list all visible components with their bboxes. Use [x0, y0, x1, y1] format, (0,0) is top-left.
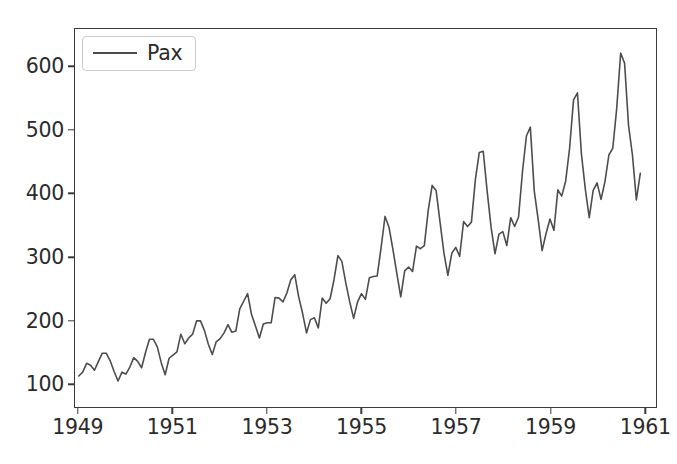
chart-legend: Pax	[82, 36, 196, 71]
x-tick-label: 1953	[241, 415, 292, 439]
legend-label-pax: Pax	[147, 43, 183, 64]
y-tick-label: 400	[26, 181, 64, 205]
x-tick-mark	[455, 408, 456, 414]
y-tick-label: 500	[26, 118, 64, 142]
y-axis-tick-labels: 100200300400500600	[0, 0, 64, 464]
y-tick-label: 600	[26, 54, 64, 78]
x-tick-mark	[77, 408, 78, 414]
x-tick-mark	[361, 408, 362, 414]
y-tick-label: 100	[26, 372, 64, 396]
legend-line-swatch	[93, 52, 137, 54]
x-tick-label: 1951	[147, 415, 198, 439]
series-line-pax	[75, 29, 656, 407]
x-tick-label: 1955	[336, 415, 387, 439]
chart-figure: 100200300400500600 194919511953195519571…	[0, 0, 677, 464]
y-tick-label: 300	[26, 245, 64, 269]
y-tick-label: 200	[26, 309, 64, 333]
x-tick-label: 1959	[525, 415, 576, 439]
x-tick-mark	[266, 408, 267, 414]
x-tick-mark	[172, 408, 173, 414]
plot-area	[74, 28, 657, 408]
x-tick-mark	[644, 408, 645, 414]
x-tick-mark	[550, 408, 551, 414]
x-tick-label: 1949	[52, 415, 103, 439]
pax-polyline	[79, 53, 641, 381]
x-tick-label: 1957	[431, 415, 482, 439]
x-tick-label: 1961	[620, 415, 671, 439]
